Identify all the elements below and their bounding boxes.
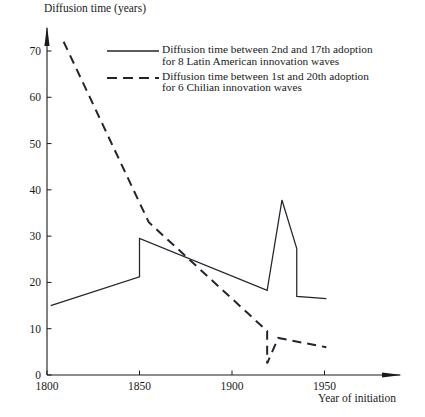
x-tick-label-1900: 1900 [221,380,244,392]
y-tick-label-30: 30 [30,230,42,242]
series-line-latin-american [51,200,327,306]
x-tick-label-1950: 1950 [313,380,336,392]
legend-label-chilean: Diffusion time between 1st and 20th adop… [162,71,369,95]
legend-label-latin-american-line2: for 8 Latin American innovation waves [162,56,373,68]
y-tick-label-20: 20 [30,276,42,288]
x-tick-label-1800: 1800 [36,380,59,392]
legend-label-latin-american: Diffusion time between 2nd and 17th adop… [162,44,373,68]
y-tick-label-40: 40 [30,184,42,196]
tick-marks-group [47,51,325,375]
y-axis-arrow-icon [44,26,49,46]
y-tick-label-60: 60 [30,91,42,103]
legend-swatch-dashed-line-icon [107,75,159,88]
x-axis-arrow-icon [382,372,402,377]
y-tick-label-70: 70 [30,45,42,57]
y-tick-label-50: 50 [30,138,42,150]
diffusion-time-chart: Diffusion time (years) Year of initiatio… [0,0,425,417]
chart-legend: Diffusion time between 2nd and 17th adop… [107,44,377,97]
legend-label-chilean-line2: for 6 Chilian innovation waves [162,82,369,94]
legend-item-chilean: Diffusion time between 1st and 20th adop… [107,71,377,95]
legend-swatch-solid-line-icon [107,48,159,61]
legend-item-latin-american: Diffusion time between 2nd and 17th adop… [107,44,377,68]
y-tick-label-10: 10 [30,323,42,335]
x-tick-label-1850: 1850 [128,380,151,392]
